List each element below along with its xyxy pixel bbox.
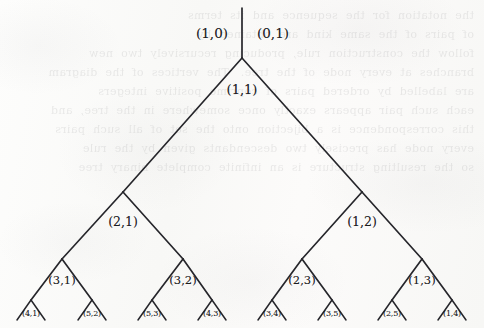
node-label-34: (3,4) (263, 309, 281, 318)
edge-11-to-21 (123, 58, 242, 192)
node-label-52: (5,2) (83, 309, 101, 318)
node-label-31: (3,1) (48, 273, 75, 287)
node-label-25: (2,5) (383, 309, 401, 318)
node-label-41: (4,1) (22, 309, 40, 318)
edge-11-to-12 (242, 58, 362, 192)
node-label-21: (2,1) (108, 214, 138, 229)
node-label-32: (3,2) (169, 273, 196, 287)
node-label-13: (1,3) (408, 273, 435, 287)
node-label-root-right: (0,1) (257, 25, 289, 41)
tree-edges (17, 8, 466, 320)
node-label-root-left: (1,0) (196, 25, 228, 41)
node-label-12: (1,2) (347, 214, 377, 229)
node-label-11: (1,1) (227, 82, 258, 97)
node-label-35: (3,5) (323, 309, 341, 318)
tree-diagram-figure: the notation for the sequence and its te… (0, 0, 484, 328)
node-label-14: (1,4) (443, 309, 461, 318)
node-label-23: (2,3) (288, 273, 315, 287)
node-label-43: (4,3) (203, 309, 221, 318)
node-label-53: (5,3) (143, 309, 161, 318)
